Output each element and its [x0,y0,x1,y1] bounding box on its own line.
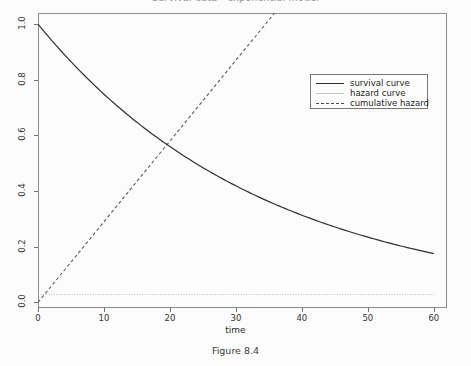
legend-item-hazard-curve: hazard curve [316,88,406,98]
x-tick-label: 10 [89,313,119,323]
chart-title: Survival data - exponential model [0,0,471,3]
y-tick-mark [34,247,38,248]
series-cumulative-hazard [38,13,275,302]
x-tick-mark [236,308,237,312]
x-tick-mark [434,308,435,312]
x-axis-label: time [0,325,471,335]
legend-swatch-light-icon [316,89,344,97]
y-tick-mark [34,191,38,192]
legend-swatch-dashed-icon [316,99,344,107]
x-tick-mark [104,308,105,312]
plot-canvas [38,13,447,308]
x-tick-label: 0 [23,313,53,323]
x-tick-label: 20 [155,313,185,323]
y-tick-label: 0.8 [17,69,27,89]
legend-swatch-solid-icon [316,79,344,87]
y-tick-label: 1.0 [17,13,27,33]
series-survival-curve [38,24,434,253]
y-tick-label: 0.2 [17,236,27,256]
x-tick-mark [368,308,369,312]
y-tick-mark [34,24,38,25]
y-tick-label: 0.0 [17,291,27,311]
x-tick-mark [170,308,171,312]
y-tick-mark [34,80,38,81]
figure-page: Survival data - exponential model 010203… [0,0,471,366]
y-tick-label: 0.6 [17,124,27,144]
y-tick-mark [34,135,38,136]
x-tick-mark [302,308,303,312]
legend-label-hazard-curve: hazard curve [350,89,406,98]
x-tick-label: 60 [419,313,449,323]
chart-legend: survival curve hazard curve cumulative h… [310,74,428,109]
legend-item-survival-curve: survival curve [316,78,410,88]
legend-label-cumulative-hazard: cumulative hazard [350,99,429,108]
y-tick-label: 0.4 [17,180,27,200]
x-tick-label: 30 [221,313,251,323]
x-tick-label: 40 [287,313,317,323]
x-tick-label: 50 [353,313,383,323]
legend-item-cumulative-hazard: cumulative hazard [316,98,429,108]
y-tick-mark [34,302,38,303]
x-tick-mark [38,308,39,312]
legend-label-survival-curve: survival curve [350,79,410,88]
figure-caption: Figure 8.4 [0,345,471,356]
